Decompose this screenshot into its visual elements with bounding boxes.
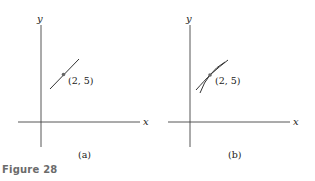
panel-a-y-label: y: [36, 13, 43, 24]
panel-b-label: (b): [228, 149, 242, 160]
panel-a-label: (a): [78, 149, 91, 160]
panel-a-point-label: (2, 5): [68, 75, 94, 86]
panel-b-point: [208, 73, 212, 77]
figure-caption: Figure 28: [2, 164, 57, 175]
panel-b-y-label: y: [185, 13, 192, 24]
panel-b-x-label: x: [293, 116, 299, 127]
panel-a: y x (2, 5) (a): [18, 13, 149, 160]
panel-b: y x (2, 5) (b): [168, 13, 299, 160]
panel-b-point-label: (2, 5): [215, 75, 241, 86]
figure-canvas: y x (2, 5) (a) y x (2, 5) (b): [0, 0, 315, 181]
panel-a-x-label: x: [143, 116, 149, 127]
panel-a-point: [62, 73, 66, 77]
